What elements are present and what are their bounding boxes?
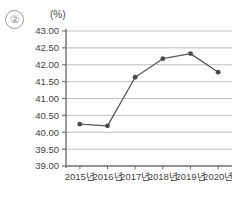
chart-figure: ② (%) 43.0042.5042.0041.5041.0040.5040.0… (0, 0, 240, 206)
y-axis-tick-label: 42.50 (35, 42, 59, 53)
y-axis-tick-label: 40.00 (35, 127, 59, 138)
y-axis-tick-labels-group: 43.0042.5042.0041.5041.0040.5040.0039.50… (35, 25, 59, 171)
y-axis-tick-label: 41.50 (35, 76, 59, 87)
x-axis-tick-label: 2016년 (92, 171, 122, 182)
data-point-marker (105, 123, 110, 128)
x-axis-tick-label: 2019년 (175, 171, 205, 182)
data-point-marker (133, 75, 138, 80)
gridlines-group (66, 31, 232, 149)
x-axis-tick-label: 2015년 (65, 171, 95, 182)
y-axis-tick-label: 43.00 (35, 25, 59, 36)
y-axis-tick-label: 40.50 (35, 110, 59, 121)
data-point-markers-group (77, 51, 220, 128)
data-point-marker (77, 122, 82, 127)
x-axis-tick-label: 2020년 (203, 171, 233, 182)
y-axis-tick-label: 41.00 (35, 93, 59, 104)
data-point-marker (160, 56, 165, 61)
x-axis-tick-label: 2017년 (120, 171, 150, 182)
data-point-marker (188, 51, 193, 56)
y-axis-tick-label: 39.00 (35, 160, 59, 171)
y-axis-tick-label: 42.00 (35, 59, 59, 70)
line-chart-plot: 43.0042.5042.0041.5041.0040.5040.0039.50… (0, 0, 240, 206)
x-axis-tick-label: 2018년 (148, 171, 178, 182)
x-axis-tick-labels-group: 2015년2016년2017년2018년2019년2020년 (65, 171, 233, 182)
data-point-marker (216, 70, 221, 75)
y-axis-tick-label: 39.50 (35, 144, 59, 155)
